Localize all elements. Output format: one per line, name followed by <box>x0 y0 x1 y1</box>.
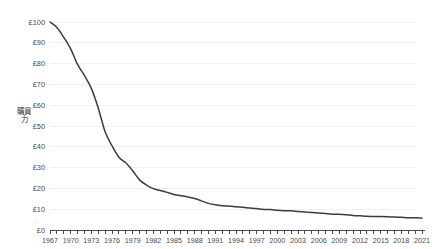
y-tick-label: £70 <box>33 80 45 89</box>
y-tick-label: £100 <box>29 18 45 27</box>
x-tick-label: 1994 <box>228 236 244 245</box>
y-tick-label: £60 <box>33 101 45 110</box>
y-axis-tick-labels: £0£10£20£30£40£50£60£70£80£90£100 <box>29 18 45 235</box>
x-tick-label: 2003 <box>290 236 306 245</box>
y-tick-label: £0 <box>37 226 45 235</box>
x-tick-label: 1973 <box>83 236 99 245</box>
x-tick-label: 1970 <box>63 236 79 245</box>
x-tick-label: 1997 <box>249 236 265 245</box>
x-tick-label: 2021 <box>414 236 430 245</box>
x-tick-label: 2012 <box>352 236 368 245</box>
x-tick-label: 2015 <box>373 236 389 245</box>
x-tick-label: 1976 <box>104 236 120 245</box>
x-tick-label: 2006 <box>311 236 327 245</box>
y-tick-label: £10 <box>33 205 45 214</box>
y-tick-label: £40 <box>33 142 45 151</box>
x-tick-label: 1979 <box>125 236 141 245</box>
x-axis-tick-labels: 1967197019731976197919821985198819911994… <box>42 236 430 245</box>
x-tick-label: 1988 <box>187 236 203 245</box>
purchasing-power-chart: 購買力 £0£10£20£30£40£50£60£70£80£90£100 19… <box>0 0 444 249</box>
y-tick-label: £90 <box>33 38 45 47</box>
y-tick-label: £50 <box>33 122 45 131</box>
x-tick-label: 1967 <box>42 236 58 245</box>
x-tick-label: 2009 <box>331 236 347 245</box>
x-tick-label: 1982 <box>145 236 161 245</box>
chart-plot-area: £0£10£20£30£40£50£60£70£80£90£100 196719… <box>0 0 444 249</box>
y-tick-label: £30 <box>33 163 45 172</box>
gridlines <box>50 22 415 209</box>
y-tick-label: £80 <box>33 59 45 68</box>
x-tick-label: 1985 <box>166 236 182 245</box>
x-tick-label: 2000 <box>269 236 285 245</box>
x-tick-label: 1991 <box>207 236 223 245</box>
y-tick-label: £20 <box>33 184 45 193</box>
x-axis-tick-marks <box>50 230 422 234</box>
x-tick-label: 2018 <box>393 236 409 245</box>
